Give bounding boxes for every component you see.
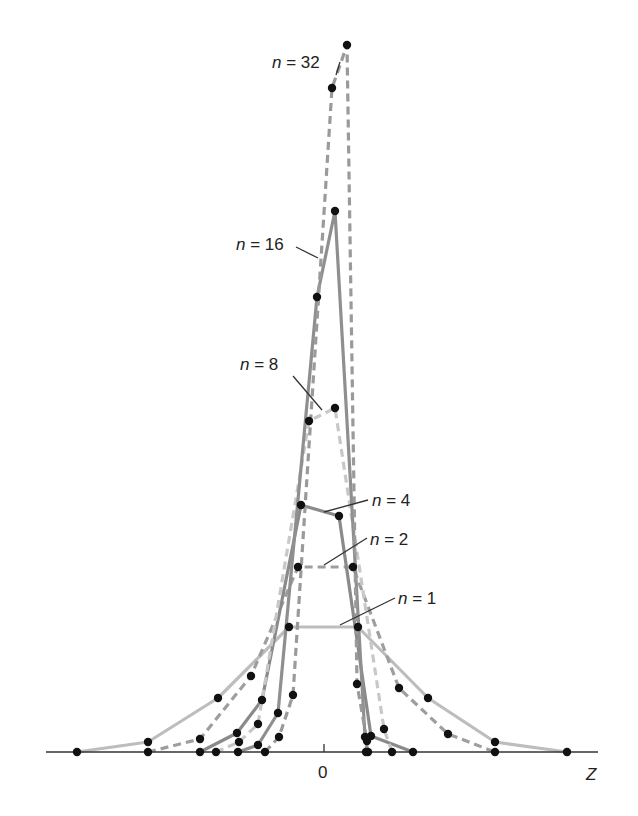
data-points <box>73 41 571 756</box>
data-point <box>285 623 293 631</box>
series-line-2 <box>148 567 495 752</box>
data-point <box>305 417 313 425</box>
series-line-6 <box>265 45 367 752</box>
data-point <box>144 738 152 746</box>
data-point <box>444 730 452 738</box>
data-point <box>395 684 403 692</box>
series-labels: n = 1n = 2n = 4n = 8n = 16n = 32 <box>236 53 436 625</box>
label-leader-line <box>296 247 318 258</box>
series-line-5 <box>238 211 368 752</box>
series-label: n = 16 <box>236 235 284 254</box>
data-point <box>297 501 305 509</box>
data-point <box>362 748 370 756</box>
x-axis-label: Z <box>585 765 597 784</box>
data-point <box>214 694 222 702</box>
series-line-1 <box>77 627 567 752</box>
series-label: n = 1 <box>398 589 436 608</box>
data-point <box>196 748 204 756</box>
data-point <box>235 738 243 746</box>
data-point <box>289 691 297 699</box>
data-point <box>212 748 220 756</box>
data-point <box>196 735 204 743</box>
data-point <box>363 737 371 745</box>
data-point <box>275 733 283 741</box>
data-point <box>343 41 351 49</box>
data-point <box>335 512 343 520</box>
series-label: n = 8 <box>240 355 278 374</box>
data-point <box>354 623 362 631</box>
series-label: n = 32 <box>272 53 320 72</box>
data-point <box>313 293 321 301</box>
data-point <box>349 563 357 571</box>
data-point <box>294 563 302 571</box>
data-point <box>491 738 499 746</box>
zero-tick-label: 0 <box>318 763 327 782</box>
data-point <box>491 748 499 756</box>
data-point <box>563 748 571 756</box>
data-point <box>424 694 432 702</box>
sampling-distribution-chart: 0 Z n = 1n = 2n = 4n = 8n = 16n = 32 <box>0 0 638 816</box>
data-point <box>254 741 262 749</box>
data-point <box>328 84 336 92</box>
data-point <box>274 709 282 717</box>
data-point <box>409 748 417 756</box>
data-point <box>73 748 81 756</box>
data-point <box>233 729 241 737</box>
series-label: n = 2 <box>370 530 408 549</box>
data-point <box>388 748 396 756</box>
data-point <box>247 672 255 680</box>
data-point <box>254 720 262 728</box>
data-point <box>234 748 242 756</box>
data-point <box>380 725 388 733</box>
data-point <box>144 748 152 756</box>
data-point <box>261 748 269 756</box>
label-leader-line <box>324 500 368 512</box>
series-lines <box>77 45 567 752</box>
data-point <box>258 696 266 704</box>
series-label: n = 4 <box>372 491 410 510</box>
data-point <box>353 680 361 688</box>
data-point <box>331 404 339 412</box>
data-point <box>331 207 339 215</box>
